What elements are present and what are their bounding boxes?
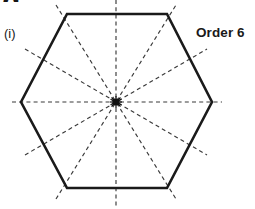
order-label: Order 6 <box>196 26 245 40</box>
symmetry-figure: g (i) Order 6 <box>0 0 255 209</box>
center-marker-icon <box>110 96 122 108</box>
part-label: (i) <box>4 27 16 40</box>
